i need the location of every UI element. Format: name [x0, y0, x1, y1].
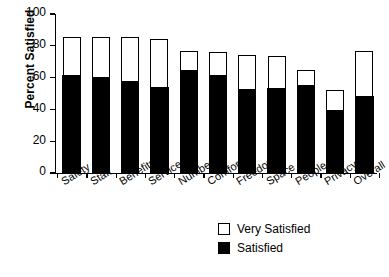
- bar-staff: [92, 37, 110, 173]
- y-tick-label: 20: [16, 133, 46, 147]
- y-tick-label: 40: [16, 101, 46, 115]
- x-tick: [57, 173, 58, 178]
- bar-freedom: [238, 55, 256, 173]
- legend-item-satisfied: Satisfied: [218, 241, 310, 255]
- bar-numbers: [180, 51, 198, 173]
- bar-overall: [355, 51, 373, 173]
- bar-segment-satisfied: [121, 81, 139, 173]
- legend-label-very-satisfied: Very Satisfied: [237, 223, 310, 235]
- bar-segment-satisfied: [62, 75, 80, 173]
- y-tick-label: 80: [16, 37, 46, 51]
- y-tick-label: 60: [16, 69, 46, 83]
- x-tick: [379, 173, 380, 178]
- legend-swatch-open-icon: [218, 223, 230, 235]
- bar-privacy: [326, 90, 344, 173]
- y-tick: 100: [50, 13, 55, 14]
- bar-benefits: [121, 37, 139, 173]
- bar-services: [150, 39, 168, 173]
- bar-segment-satisfied: [92, 77, 110, 173]
- legend-item-very-satisfied: Very Satisfied: [218, 222, 310, 236]
- y-tick: 0: [50, 172, 55, 173]
- y-tick-label: 0: [16, 164, 46, 178]
- legend-label-satisfied: Satisfied: [237, 242, 283, 254]
- bar-segment-satisfied: [297, 85, 315, 173]
- legend: Very Satisfied Satisfied: [218, 222, 310, 260]
- bar-safety: [63, 37, 81, 173]
- y-tick: 40: [50, 109, 55, 110]
- plot-area: 020406080100: [55, 14, 377, 173]
- bar-chart: Percent Satisfied 020406080100 SafetySta…: [0, 0, 389, 277]
- y-tick-label: 100: [16, 5, 46, 19]
- y-tick: 60: [50, 77, 55, 78]
- y-tick: 20: [50, 141, 55, 142]
- y-axis-line: [55, 14, 56, 173]
- bar-people: [297, 70, 315, 173]
- bar-segment-satisfied: [355, 96, 373, 173]
- x-tick: [262, 173, 263, 178]
- legend-swatch-filled-icon: [218, 242, 230, 254]
- y-tick: 80: [50, 45, 55, 46]
